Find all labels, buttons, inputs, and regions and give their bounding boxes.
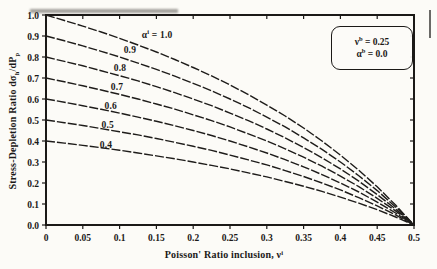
curve-alpha-0.6 [46, 99, 414, 225]
x-tick-label: 0.45 [369, 233, 386, 243]
superscript: i [147, 28, 149, 35]
text-part: 0.4 [100, 140, 112, 150]
y-tick-label: 0.8 [27, 53, 39, 63]
text-part: 0.8 [114, 63, 126, 73]
x-tick-label: 0.4 [334, 233, 346, 243]
x-tick-label: 0.1 [114, 233, 126, 243]
x-tick-label: 0.2 [187, 233, 199, 243]
y-tick-label: 0.6 [27, 95, 39, 105]
x-tick-label: 0.25 [222, 233, 239, 243]
y-tick-label: 0.9 [27, 32, 39, 42]
curve-label-alpha-0.4: 0.4 [100, 140, 112, 150]
text-part: = 0.25 [363, 37, 390, 47]
curve-label-alpha-0.6: 0.6 [105, 101, 117, 111]
text-part: /dP [7, 56, 18, 71]
text-part: = 1.0 [149, 30, 172, 40]
x-tick-label: 0.35 [295, 233, 312, 243]
y-tick-label: 0.1 [27, 200, 39, 210]
superscript: b [362, 47, 366, 54]
y-tick-label: 0.7 [27, 74, 39, 84]
legend-box: νb = 0.25 αb = 0.0 [331, 26, 413, 70]
text-part: 0.6 [105, 101, 117, 111]
y-tick-label: 0.3 [27, 158, 39, 168]
curve-label-alpha-0.9: 0.9 [124, 45, 136, 55]
y-tick-label: 0.4 [27, 137, 39, 147]
y-tick-label: 0.2 [27, 179, 39, 189]
x-tick-label: 0.3 [261, 233, 273, 243]
legend-line-nu: νb = 0.25 [355, 37, 390, 48]
text-part: Stress-Depletion Ratio dσ [7, 75, 18, 189]
scanned-chart-figure: 00.050.10.150.20.250.30.350.40.450.50.00… [0, 0, 437, 269]
y-tick-label: 0.5 [27, 116, 39, 126]
x-axis-title: Poisson' Ratio inclusion, νi [165, 249, 284, 260]
superscript: b [359, 35, 363, 42]
superscript: i [281, 248, 283, 255]
curve-label-alpha-0.8: 0.8 [114, 63, 126, 73]
x-tick-label: 0.15 [148, 233, 165, 243]
text-part: 0.9 [124, 45, 136, 55]
x-tick-label: 0 [44, 233, 49, 243]
subscript: h [12, 71, 19, 75]
text-part: 0.7 [111, 82, 123, 92]
text-part: = 0.0 [365, 49, 387, 59]
text-part: Poisson' Ratio inclusion, ν [165, 249, 282, 260]
curve-label-alpha-0.7: 0.7 [111, 82, 123, 92]
x-tick-label: 0.5 [408, 233, 420, 243]
y-tick-label: 0.0 [27, 221, 39, 231]
y-axis-title: Stress-Depletion Ratio dσh/dPp [7, 53, 18, 190]
text-part: 0.5 [102, 120, 114, 130]
legend-line-alpha: αb = 0.0 [357, 49, 388, 60]
curve-label-alpha-0.5: 0.5 [102, 120, 114, 130]
x-tick-label: 0.05 [74, 233, 91, 243]
y-tick-label: 1.0 [27, 11, 39, 21]
text-part: α [142, 30, 148, 40]
curve-alpha-0.5 [46, 120, 414, 225]
curve-label-alpha-1: αi = 1.0 [142, 30, 173, 40]
curve-alpha-0.4 [46, 141, 414, 225]
subscript: p [12, 53, 19, 57]
